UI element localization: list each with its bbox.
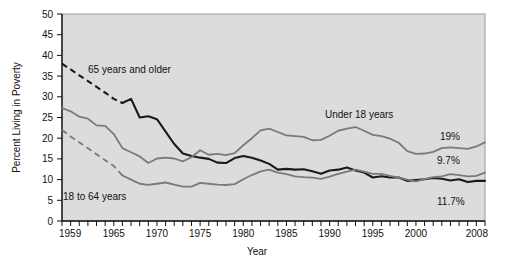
poverty-rate-chart: 0510152025303540455019591965197019751980…: [0, 0, 514, 264]
chart-canvas: 0510152025303540455019591965197019751980…: [0, 0, 514, 264]
plot-area-background: [62, 14, 485, 221]
x-axis-tick-label: 1995: [362, 228, 385, 239]
x-axis-tick-label: 1985: [275, 228, 298, 239]
series-annotation-1: Under 18 years: [325, 109, 393, 120]
x-axis-tick-label: 1975: [189, 228, 212, 239]
series-annotation-0: 65 years and older: [88, 64, 172, 75]
x-axis-tick-label: 1990: [318, 228, 341, 239]
y-axis-tick-label: 45: [42, 29, 54, 40]
x-axis-tick-label: 2008: [466, 228, 489, 239]
y-axis-tick-label: 25: [42, 112, 54, 123]
series-end-value-label-2: 11.7%: [437, 196, 465, 207]
x-axis-tick-label: 1959: [59, 228, 82, 239]
y-axis-tick-label: 20: [42, 133, 54, 144]
series-annotation-2: 18 to 64 years: [63, 191, 126, 202]
x-axis-title: Year: [247, 246, 268, 257]
series-end-value-label-1: 9.7%: [437, 155, 460, 166]
x-axis-tick-label: 2000: [405, 228, 428, 239]
y-axis-tick-label: 35: [42, 71, 54, 82]
x-axis-tick-label: 1970: [146, 228, 169, 239]
y-axis-tick-label: 0: [47, 216, 53, 227]
y-axis-tick-label: 50: [42, 9, 54, 20]
x-axis-tick-label: 1965: [103, 228, 126, 239]
y-axis-tick-label: 30: [42, 91, 54, 102]
y-axis-tick-label: 5: [47, 195, 53, 206]
y-axis-title: Percent Living in Poverty: [11, 62, 22, 173]
series-end-value-label-0: 19%: [440, 131, 460, 142]
y-axis-tick-label: 15: [42, 153, 54, 164]
y-axis-tick-label: 10: [42, 174, 54, 185]
y-axis-tick-label: 40: [42, 50, 54, 61]
x-axis-tick-label: 1980: [232, 228, 255, 239]
